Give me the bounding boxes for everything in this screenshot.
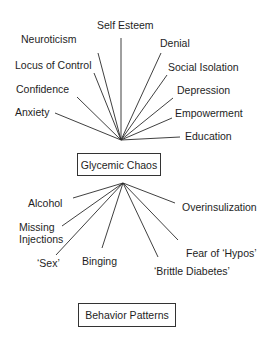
label-self-esteem: Self Esteem (97, 19, 154, 31)
behavior-patterns-box: Behavior Patterns (78, 303, 176, 327)
line-education (121, 137, 180, 140)
label-fear-of-hypos: Fear of ‘Hypos’ (186, 247, 257, 259)
line-confidence (77, 97, 121, 140)
line-locus-of-control (94, 73, 121, 140)
label-sex: ‘Sex’ (37, 257, 60, 269)
label-locus-of-control: Locus of Control (15, 59, 91, 71)
label-injections: Injections (19, 233, 63, 245)
label-empowerment: Empowerment (175, 107, 243, 119)
glycemic-chaos-label: Glycemic Chaos (81, 159, 157, 171)
label-depression: Depression (177, 84, 230, 96)
label-missing: Missing (19, 221, 55, 233)
line-depression (121, 98, 173, 140)
line-fear-of-hypos (123, 183, 178, 240)
line-denial (121, 53, 161, 140)
label-denial: Denial (160, 37, 190, 49)
label-neuroticism: Neuroticism (21, 33, 76, 45)
line-sex (56, 183, 123, 255)
label-education: Education (185, 130, 232, 142)
line-missing-injections (62, 183, 123, 226)
line-binging (102, 183, 123, 248)
label-social-isolation: Social Isolation (168, 61, 239, 73)
label-anxiety: Anxiety (15, 106, 49, 118)
label-binging: Binging (82, 255, 117, 267)
line-anxiety (55, 113, 121, 140)
glycemic-chaos-box: Glycemic Chaos (77, 153, 161, 176)
label-brittle-diabetes: ‘Brittle Diabetes’ (154, 265, 230, 277)
behavior-patterns-label: Behavior Patterns (85, 309, 168, 321)
label-confidence: Confidence (16, 83, 69, 95)
label-alcohol: Alcohol (28, 197, 62, 209)
label-overinsulization: Overinsulization (182, 201, 257, 213)
line-neuroticism (98, 53, 121, 140)
